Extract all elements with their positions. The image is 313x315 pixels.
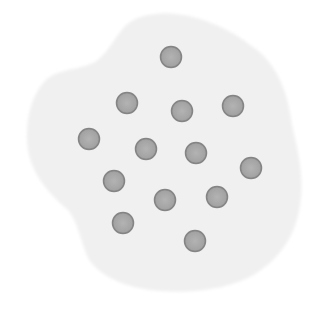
dot-6 <box>136 139 157 160</box>
dot-7 <box>186 143 207 164</box>
dot-2 <box>117 93 138 114</box>
dot-4 <box>223 96 244 117</box>
dot-13 <box>185 231 206 252</box>
dot-12 <box>113 213 134 234</box>
dot-11 <box>207 187 228 208</box>
dot-10 <box>155 190 176 211</box>
dot-3 <box>172 101 193 122</box>
blob-canvas <box>0 0 313 315</box>
dot-9 <box>104 171 125 192</box>
dot-1 <box>161 47 182 68</box>
dot-5 <box>79 129 100 150</box>
scene <box>0 0 313 315</box>
dot-8 <box>241 158 262 179</box>
